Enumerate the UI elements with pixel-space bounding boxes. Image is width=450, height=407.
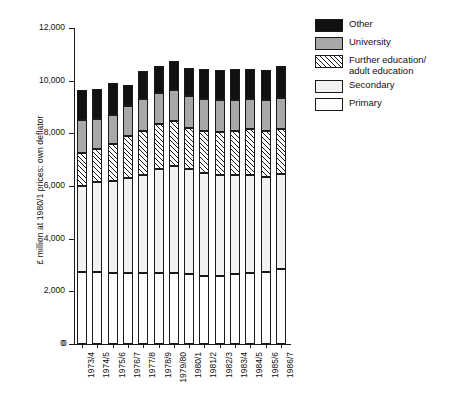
x-axis-tick-label: 1981/2 xyxy=(208,352,218,378)
bar-segment xyxy=(108,273,118,344)
y-axis-tick: 8,000 xyxy=(69,133,74,134)
bar-segment xyxy=(138,71,148,99)
legend-item: University xyxy=(315,36,447,51)
bar-segment xyxy=(230,274,240,344)
x-axis-tick-label: 1979/80 xyxy=(178,352,188,383)
bar-segment xyxy=(108,115,118,144)
x-axis-tick xyxy=(204,344,205,348)
x-axis-tick xyxy=(143,344,144,348)
bar-segment xyxy=(184,96,194,128)
legend-swatch-icon xyxy=(315,55,343,68)
y-axis-zero-label: 0 xyxy=(62,338,67,348)
bar-segment xyxy=(184,128,194,169)
bar-segment xyxy=(77,272,87,344)
bar-segment xyxy=(276,66,286,98)
bar-segment xyxy=(245,129,255,175)
bar-segment xyxy=(92,182,102,272)
legend-label: Primary xyxy=(349,97,382,109)
legend-item: Further education/ adult education xyxy=(315,54,447,76)
legend-label: University xyxy=(349,36,391,48)
bar-segment xyxy=(199,173,209,276)
legend-swatch-icon xyxy=(315,37,343,50)
bar-1974-5 xyxy=(92,89,102,344)
bar-segment xyxy=(215,276,225,344)
bar-segment xyxy=(77,186,87,272)
bar-segment xyxy=(199,69,209,99)
bar-segment xyxy=(92,149,102,182)
bar-segment xyxy=(77,90,87,120)
bar-segment xyxy=(154,169,164,273)
bar-segment xyxy=(154,93,164,125)
y-axis-tick-label: 2,000 xyxy=(44,285,65,295)
bar-segment xyxy=(154,66,164,92)
bar-segment xyxy=(230,131,240,176)
y-axis-tick-label: 4,000 xyxy=(44,233,65,243)
bar-segment xyxy=(184,274,194,344)
bar-segment xyxy=(92,89,102,119)
bar-segment xyxy=(169,166,179,273)
legend-label: Other xyxy=(349,18,373,30)
bar-segment xyxy=(138,131,148,176)
bar-1978-9 xyxy=(154,66,164,344)
x-axis-tick-label: 1973/4 xyxy=(86,352,96,378)
bar-1976-7 xyxy=(123,85,133,344)
bar-1979-80 xyxy=(169,61,179,344)
bar-1986-7 xyxy=(276,66,286,344)
bar-segment xyxy=(276,98,286,130)
bar-segment xyxy=(92,272,102,344)
bar-segment xyxy=(108,181,118,273)
x-axis-tick-label: 1975/6 xyxy=(117,352,127,378)
x-axis-tick-label: 1978/9 xyxy=(163,352,173,378)
legend-item: Other xyxy=(315,18,447,33)
bar-segment xyxy=(123,106,133,136)
bar-segment xyxy=(138,99,148,131)
bar-segment xyxy=(276,269,286,344)
bar-segment xyxy=(154,273,164,344)
bar-segment xyxy=(169,121,179,166)
bar-segment xyxy=(123,273,133,344)
bar-segment xyxy=(154,124,164,169)
bar-segment xyxy=(215,175,225,275)
x-axis-tick xyxy=(281,344,282,348)
legend-swatch-icon xyxy=(315,19,343,32)
legend: OtherUniversityFurther education/ adult … xyxy=(315,18,447,115)
bar-segment xyxy=(245,175,255,272)
bar-segment xyxy=(199,276,209,344)
x-axis-tick xyxy=(235,344,236,348)
bar-segment xyxy=(169,90,179,122)
x-axis-tick xyxy=(159,344,160,348)
legend-item: Secondary xyxy=(315,79,447,94)
bar-segment xyxy=(169,273,179,344)
y-axis-tick-label: 12,000 xyxy=(39,22,65,32)
bar-segment xyxy=(261,70,271,100)
bar-segment xyxy=(245,99,255,129)
x-axis-tick-label: 1985/6 xyxy=(270,352,280,378)
stacked-bar-chart: £ million at 1980/1 prices: own deflator… xyxy=(0,0,450,407)
bar-segment xyxy=(230,69,240,101)
x-axis-tick-label: 1976/7 xyxy=(132,352,142,378)
bar-segment xyxy=(261,100,271,130)
y-axis-tick: 6,000 xyxy=(69,186,74,187)
bar-1983-4 xyxy=(230,69,240,344)
bar-segment xyxy=(199,131,209,173)
y-axis-tick-label: 8,000 xyxy=(44,127,65,137)
x-axis-tick-label: 1982/3 xyxy=(224,352,234,378)
bar-1977-8 xyxy=(138,71,148,344)
bar-segment xyxy=(138,273,148,344)
bar-segment xyxy=(123,85,133,106)
x-axis-tick xyxy=(266,344,267,348)
x-axis-tick-label: 1984/5 xyxy=(254,352,264,378)
bar-1973-4 xyxy=(77,90,87,344)
bar-segment xyxy=(245,273,255,344)
x-axis-tick-label: 1980/1 xyxy=(193,352,203,378)
y-axis-tick: 2,000 xyxy=(69,291,74,292)
x-axis-tick xyxy=(82,344,83,348)
legend-label: Further education/ adult education xyxy=(349,54,426,76)
bar-segment xyxy=(215,100,225,132)
x-axis-tick xyxy=(97,344,98,348)
bar-segment xyxy=(261,131,271,177)
bar-segment xyxy=(199,99,209,131)
bar-segment xyxy=(276,174,286,269)
bar-segment xyxy=(123,136,133,178)
bar-segment xyxy=(92,119,102,149)
